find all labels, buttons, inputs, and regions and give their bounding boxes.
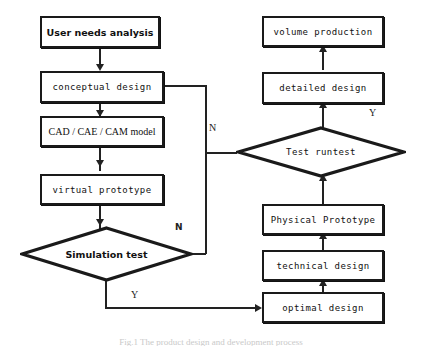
node-label-wrap: Test runtest bbox=[236, 126, 406, 178]
node-volume-production[interactable]: volume production bbox=[262, 16, 384, 47]
node-test-runtest[interactable]: Test runtest bbox=[236, 126, 406, 178]
node-label: conceptual design bbox=[53, 82, 152, 92]
arrow-head-right-optimal-design bbox=[255, 304, 262, 312]
node-conceptual-design[interactable]: conceptual design bbox=[40, 71, 164, 103]
arrow-head-down-virtual bbox=[96, 160, 104, 167]
edge-label-text: N bbox=[209, 122, 216, 133]
node-label: Test runtest bbox=[286, 147, 356, 157]
edge-cad-to-virtual bbox=[99, 147, 101, 171]
node-label: Simulation test bbox=[65, 249, 147, 260]
node-simulation-test[interactable]: Simulation test bbox=[20, 226, 193, 282]
node-label-wrap: Simulation test bbox=[20, 226, 193, 282]
edge-simulation-yes-vertical bbox=[105, 281, 107, 308]
node-label: optimal design bbox=[282, 303, 363, 313]
node-detailed-design[interactable]: detailed design bbox=[262, 72, 384, 104]
node-label: CAD / CAE / CAM model bbox=[49, 126, 156, 137]
edge-label-simulation-no: N bbox=[175, 222, 183, 232]
edge-label-text: N bbox=[175, 222, 183, 232]
edge-label-text: Y bbox=[131, 289, 138, 300]
edge-label-simulation-yes: Y bbox=[131, 289, 138, 300]
node-optimal-design[interactable]: optimal design bbox=[262, 292, 384, 323]
node-label: User needs analysis bbox=[47, 27, 154, 38]
edge-simulation-no-horizontal bbox=[192, 253, 206, 255]
node-label: Physical Prototype bbox=[271, 215, 376, 225]
arrow-head-down-conceptual bbox=[96, 64, 104, 71]
edge-label-runtest-no: N bbox=[209, 122, 216, 133]
figure-caption-text: Fig.1 The product design and development… bbox=[119, 337, 303, 346]
arrow-head-down-simulation bbox=[96, 219, 104, 226]
edge-simulation-yes-horizontal bbox=[105, 307, 257, 309]
edge-label-text: Y bbox=[369, 107, 376, 118]
node-label: virtual prototype bbox=[53, 185, 152, 195]
node-user-needs-analysis[interactable]: User needs analysis bbox=[40, 16, 160, 48]
node-technical-design[interactable]: technical design bbox=[262, 250, 384, 281]
node-physical-prototype[interactable]: Physical Prototype bbox=[262, 204, 384, 235]
edge-simulation-no-vertical bbox=[205, 85, 207, 254]
edge-runtest-no-horizontal bbox=[205, 152, 237, 154]
node-virtual-prototype[interactable]: virtual prototype bbox=[40, 174, 164, 205]
node-label: technical design bbox=[276, 261, 369, 271]
figure-caption: Fig.1 The product design and development… bbox=[0, 336, 422, 346]
edge-label-runtest-yes: Y bbox=[369, 107, 376, 118]
edge-return-to-conceptual bbox=[164, 85, 206, 87]
edge-physical-to-runtest bbox=[322, 177, 324, 206]
node-label: volume production bbox=[274, 27, 373, 37]
node-cad-cae-cam-model[interactable]: CAD / CAE / CAM model bbox=[40, 116, 164, 147]
flowchart-canvas: User needs analysis conceptual design CA… bbox=[0, 0, 422, 346]
node-label: detailed design bbox=[279, 83, 366, 93]
